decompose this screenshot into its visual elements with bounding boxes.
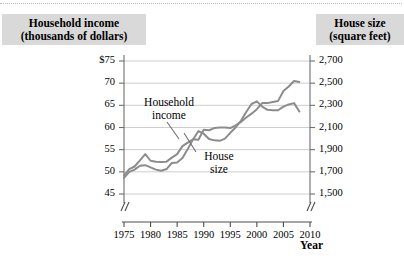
housesize-label-line2: size <box>210 163 228 175</box>
series-annotation-house-size: House size <box>196 150 242 175</box>
axis-break-marks <box>121 202 315 211</box>
right-axis-ticks <box>310 61 315 194</box>
right-tick-label: 1,900 <box>319 143 365 154</box>
left-tick-label: 50 <box>75 165 115 176</box>
x-axis-ticks <box>124 222 310 227</box>
left-tick-label: 65 <box>75 98 115 109</box>
right-tick-label: 1,500 <box>319 187 365 198</box>
housesize-label-line1: House <box>204 150 233 162</box>
left-axis-ticks <box>119 61 124 194</box>
right-tick-label: 2,700 <box>319 54 365 65</box>
household-label-line2: income <box>152 109 186 121</box>
left-tick-label: 70 <box>75 76 115 87</box>
x-axis-title: Year <box>300 239 360 251</box>
right-tick-label: 2,500 <box>319 76 365 87</box>
left-tick-label: 60 <box>75 121 115 132</box>
series-annotation-household-income: Household income <box>133 96 205 121</box>
axis-lines <box>122 55 312 222</box>
right-tick-label: 2,100 <box>319 121 365 132</box>
right-tick-label: 2,300 <box>319 98 365 109</box>
left-tick-label: 45 <box>75 187 115 198</box>
household-label-line1: Household <box>144 96 194 108</box>
left-tick-label: 55 <box>75 143 115 154</box>
left-tick-label: $75 <box>75 54 115 65</box>
right-tick-label: 1,700 <box>319 165 365 176</box>
